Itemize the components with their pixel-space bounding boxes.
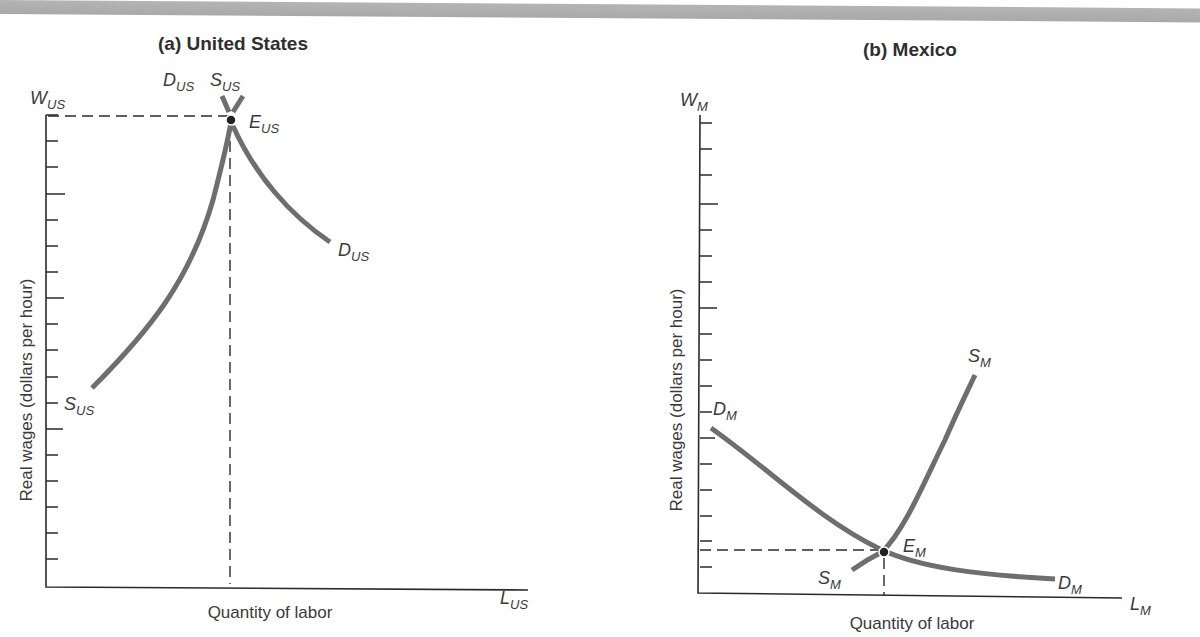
axes-a xyxy=(46,115,528,590)
panel-united-states: (a) United States Real wages (dollars pe… xyxy=(17,33,528,622)
supply-curve-us-upper xyxy=(233,96,243,112)
x-axis-symbol-b: LM xyxy=(1130,594,1151,618)
equilibrium-point-us xyxy=(226,115,236,125)
axes-b xyxy=(698,115,1122,598)
equilibrium-label-mexico: EM xyxy=(903,536,926,560)
panel-mexico: (b) Mexico Real wages (dollars per hour)… xyxy=(667,39,1151,633)
equilibrium-point-mexico xyxy=(879,547,889,557)
supply-curve-us xyxy=(92,122,231,388)
demand-curve-us xyxy=(233,126,330,242)
y-axis-symbol-a: WUS xyxy=(30,88,65,112)
supply-label-start-mexico: SM xyxy=(818,568,841,592)
supply-label-top-us: SUS xyxy=(210,70,240,94)
demand-label-end-us: DUS xyxy=(338,240,369,264)
y-axis-label-b: Real wages (dollars per hour) xyxy=(667,289,686,512)
y-axis-symbol-b: WM xyxy=(680,90,708,114)
supply-label-end-us: SUS xyxy=(64,394,94,418)
y-ticks-b xyxy=(700,123,718,567)
chart-title-b: (b) Mexico xyxy=(863,39,957,60)
x-axis-symbol-a: LUS xyxy=(500,588,528,612)
demand-label-top-us: DUS xyxy=(163,70,194,94)
supply-label-end-mexico: SM xyxy=(968,346,991,370)
y-axis-label-a: Real wages (dollars per hour) xyxy=(17,279,36,502)
x-axis-label-b: Quantity of labor xyxy=(850,614,975,633)
equilibrium-label-us: EUS xyxy=(249,112,279,136)
chart-title-a: (a) United States xyxy=(158,33,308,54)
demand-curve-us-upper xyxy=(222,96,229,112)
x-axis-label-a: Quantity of labor xyxy=(208,603,333,622)
demand-label-end-mexico: DM xyxy=(1058,573,1082,597)
y-ticks-a xyxy=(46,115,65,559)
demand-label-start-mexico: DM xyxy=(713,399,737,423)
labor-market-charts: (a) United States Real wages (dollars pe… xyxy=(0,0,1200,637)
